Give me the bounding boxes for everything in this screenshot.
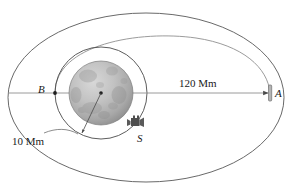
satellite-label: S — [137, 133, 143, 144]
point-a-label: A — [275, 88, 282, 99]
orbit-diagram-svg — [0, 0, 288, 195]
satellite-icon — [127, 116, 144, 128]
orbit-diagram: B A S 120 Mm 10 Mm — [0, 0, 288, 195]
point-b-marker — [53, 91, 57, 95]
inner-radius-label: 10 Mm — [12, 136, 44, 147]
outer-distance-label: 120 Mm — [179, 78, 217, 89]
inner-radius-callout-curve — [44, 129, 78, 134]
point-a-marker — [269, 85, 272, 101]
point-b-label: B — [38, 84, 45, 95]
outer-orbit-ellipse — [8, 13, 284, 182]
